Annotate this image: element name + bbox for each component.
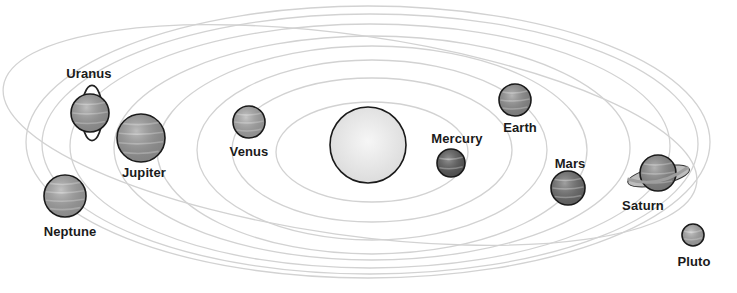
label-pluto: Pluto [678,254,711,269]
planet-pluto [682,224,704,246]
solar-system-diagram: Uranus Jupiter Neptune Venus Mercury Ear… [0,0,737,293]
label-earth: Earth [503,120,537,135]
planet-venus [233,106,265,138]
planet-uranus [71,85,109,140]
label-venus: Venus [230,144,269,159]
label-uranus: Uranus [66,66,111,81]
planet-jupiter [117,114,165,162]
sun-circle [330,107,406,183]
planet-saturn [626,155,691,191]
label-mercury: Mercury [431,131,482,146]
label-mars: Mars [555,156,586,171]
planet-earth [499,84,531,116]
sun [330,107,406,183]
solar-system-canvas [0,0,737,293]
planet-mars [551,171,585,205]
planet-mercury [437,149,465,177]
label-jupiter: Jupiter [122,165,166,180]
label-neptune: Neptune [44,224,97,239]
label-saturn: Saturn [622,198,664,213]
planet-neptune [44,175,86,217]
